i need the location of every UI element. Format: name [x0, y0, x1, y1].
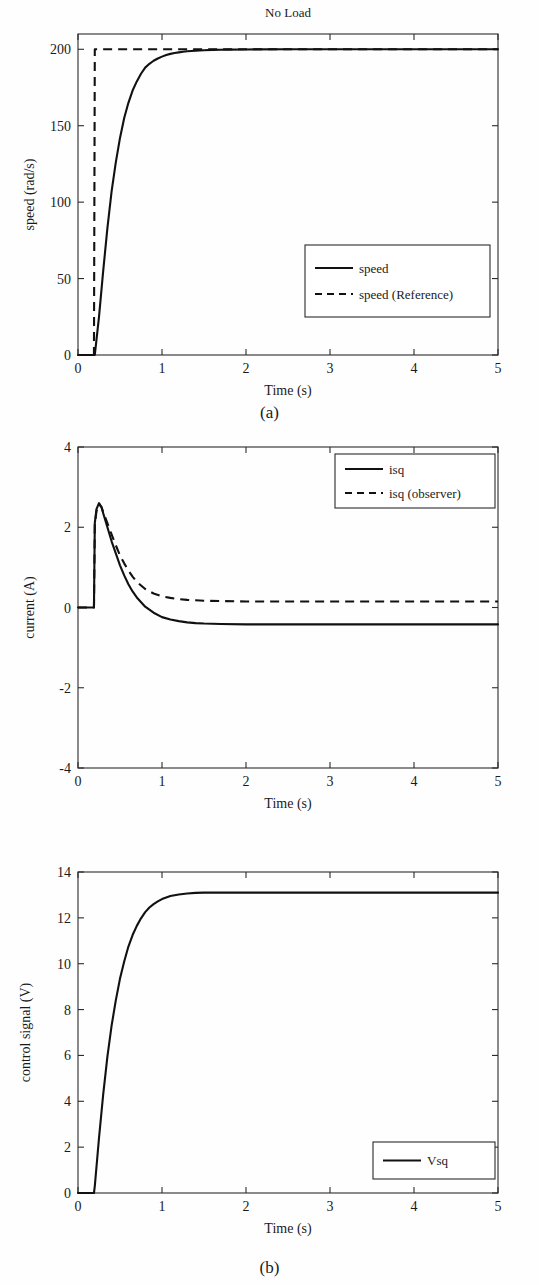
x-tick-label: 0: [75, 1199, 82, 1214]
y-tick-label: 4: [64, 440, 71, 455]
x-tick-label: 2: [243, 774, 250, 789]
x-axis-label: Time (s): [264, 796, 312, 812]
y-tick-label: 6: [64, 1048, 71, 1063]
legend: [305, 245, 490, 317]
legend-label: Vsq: [427, 1153, 448, 1168]
x-tick-label: 5: [495, 1199, 502, 1214]
y-tick-label: 10: [57, 957, 71, 972]
y-axis-label: control signal (V): [18, 982, 34, 1082]
x-tick-label: 4: [411, 774, 418, 789]
y-tick-label: 12: [57, 911, 71, 926]
y-tick-label: 14: [57, 865, 71, 880]
y-tick-label: 8: [64, 1003, 71, 1018]
legend-label: speed: [359, 261, 389, 276]
y-tick-label: 150: [50, 119, 71, 134]
x-tick-label: 1: [159, 774, 166, 789]
x-tick-label: 4: [411, 361, 418, 376]
legend-label: isq (observer): [389, 486, 461, 501]
legend-label: isq: [389, 462, 405, 477]
x-tick-label: 5: [495, 774, 502, 789]
y-tick-label: 0: [64, 348, 71, 363]
x-tick-label: 0: [75, 774, 82, 789]
x-tick-label: 1: [159, 361, 166, 376]
y-axis-label: speed (rad/s): [22, 158, 38, 230]
panel-speed: No Load012345050100150200Time (s)speed (…: [0, 0, 539, 430]
subfigure-caption: (a): [260, 403, 279, 422]
x-tick-label: 0: [75, 361, 82, 376]
panel-control-signal: 01234502468101214Time (s)control signal …: [0, 855, 539, 1285]
panel-current: 012345-4-2024Time (s)current (A)isqisq (…: [0, 430, 539, 855]
series-isq-observer-: [78, 504, 498, 608]
x-tick-label: 3: [327, 1199, 334, 1214]
series-isq: [78, 503, 498, 624]
x-tick-label: 1: [159, 1199, 166, 1214]
y-tick-label: 50: [57, 272, 71, 287]
chart-title: No Load: [265, 5, 311, 20]
y-tick-label: 100: [50, 195, 71, 210]
x-tick-label: 3: [327, 361, 334, 376]
y-tick-label: -4: [59, 761, 71, 776]
chart-fig-a: No Load012345050100150200Time (s)speed (…: [0, 0, 539, 430]
x-tick-label: 2: [243, 1199, 250, 1214]
x-tick-label: 4: [411, 1199, 418, 1214]
y-tick-label: 2: [64, 520, 71, 535]
x-axis-label: Time (s): [264, 383, 312, 399]
chart-fig-c: 01234502468101214Time (s)control signal …: [0, 855, 539, 1285]
x-axis-label: Time (s): [264, 1221, 312, 1237]
x-tick-label: 5: [495, 361, 502, 376]
y-tick-label: 0: [64, 601, 71, 616]
x-tick-label: 2: [243, 361, 250, 376]
y-tick-label: 4: [64, 1094, 71, 1109]
y-tick-label: 0: [64, 1186, 71, 1201]
y-tick-label: -2: [59, 681, 71, 696]
subfigure-caption: (b): [260, 1258, 280, 1277]
legend-label: speed (Reference): [359, 287, 453, 302]
y-tick-label: 200: [50, 42, 71, 57]
figure-page: No Load012345050100150200Time (s)speed (…: [0, 0, 539, 1285]
y-tick-label: 2: [64, 1140, 71, 1155]
y-axis-label: current (A): [22, 576, 38, 639]
x-tick-label: 3: [327, 774, 334, 789]
chart-fig-b: 012345-4-2024Time (s)current (A)isqisq (…: [0, 430, 539, 855]
